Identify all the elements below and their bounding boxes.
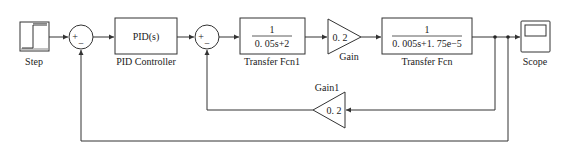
tf-label: Transfer Fcn bbox=[401, 56, 452, 67]
gain1-label: Gain1 bbox=[315, 82, 339, 93]
transfer-fcn1-block[interactable]: 1 0. 05s+2 bbox=[240, 18, 305, 54]
sum1-minus-sign: − bbox=[78, 38, 84, 49]
simulink-diagram: Step + − PID(s) PID Controller + − 1 0. … bbox=[0, 0, 571, 150]
transfer-fcn-block[interactable]: 1 0. 005s+1. 75e−5 bbox=[382, 18, 472, 54]
step-label: Step bbox=[25, 56, 43, 67]
sum2-minus-sign: − bbox=[204, 38, 210, 49]
pid-controller-block[interactable]: PID(s) bbox=[115, 18, 177, 54]
tf1-numerator: 1 bbox=[270, 24, 275, 35]
scope-screen-icon bbox=[525, 25, 546, 36]
sum1-block[interactable]: + − bbox=[69, 25, 93, 49]
tf-denominator: 0. 005s+1. 75e−5 bbox=[392, 38, 462, 49]
gain1-block[interactable]: 0. 2 bbox=[313, 92, 345, 128]
scope-block[interactable] bbox=[521, 21, 550, 52]
sum2-block[interactable]: + − bbox=[195, 25, 219, 49]
step-block[interactable] bbox=[20, 22, 49, 51]
pid-content: PID(s) bbox=[133, 31, 160, 43]
gain1-value: 0. 2 bbox=[327, 105, 342, 116]
gain-block[interactable]: 0. 2 bbox=[328, 19, 361, 54]
pid-label: PID Controller bbox=[116, 56, 176, 67]
tf1-denominator: 0. 05s+2 bbox=[255, 38, 290, 49]
gain-label: Gain bbox=[339, 51, 358, 62]
gain-value: 0. 2 bbox=[333, 32, 348, 43]
tf-numerator: 1 bbox=[425, 24, 430, 35]
tf1-label: Transfer Fcn1 bbox=[244, 56, 300, 67]
scope-label: Scope bbox=[523, 56, 548, 67]
